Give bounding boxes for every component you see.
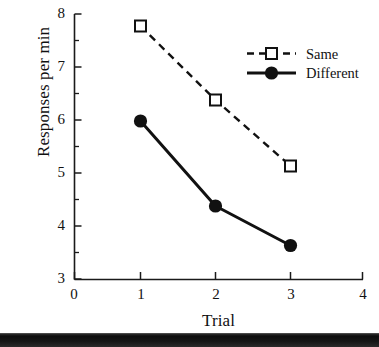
x-tick-label-0: 0 xyxy=(64,287,84,302)
x-tick-label-1: 1 xyxy=(131,287,151,302)
series-different xyxy=(134,114,297,252)
x-tick-label-2: 2 xyxy=(206,287,226,302)
legend-glyph-same xyxy=(247,48,296,59)
y-tick-label-3: 3 xyxy=(49,271,65,286)
x-axis-title: Trial xyxy=(202,311,235,331)
legend-label-same: Same xyxy=(306,46,338,63)
series-same xyxy=(135,21,296,172)
chart-figure: 8 7 6 5 4 3 0 1 2 3 4 Responses per min … xyxy=(0,0,379,347)
legend-label-different: Different xyxy=(306,65,359,82)
x-tick-label-3: 3 xyxy=(281,287,301,302)
y-tick-label-4: 4 xyxy=(49,218,65,233)
legend-glyph-different xyxy=(247,66,296,79)
y-axis-title: Responses per min xyxy=(34,26,54,156)
y-tick-label-5: 5 xyxy=(49,165,65,180)
scan-artifact-band xyxy=(0,333,379,347)
x-major-ticks xyxy=(75,272,363,280)
x-tick-label-4: 4 xyxy=(353,287,373,302)
y-tick-label-8: 8 xyxy=(49,6,65,21)
